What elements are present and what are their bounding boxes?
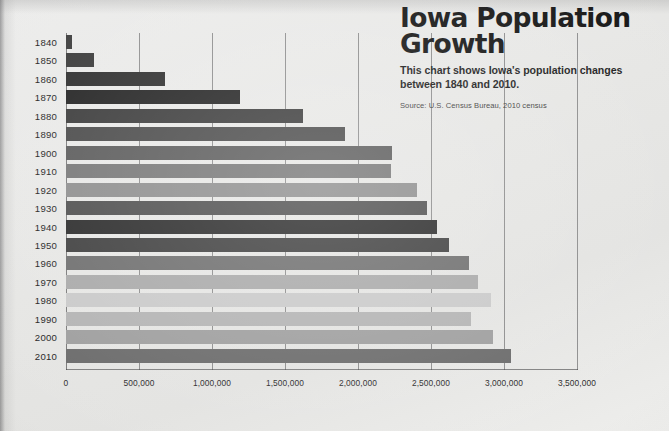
x-tick-1000000: 1,000,000 (193, 378, 231, 388)
bar-2010 (66, 349, 511, 363)
y-axis-label-1960: 1960 (0, 258, 57, 269)
bar-row: 1940 (0, 220, 669, 234)
y-axis-label-1920: 1920 (0, 184, 57, 195)
y-axis-label-1880: 1880 (0, 110, 57, 121)
bar-1970 (66, 275, 478, 289)
chart-source-note: Source: U.S. Census Bureau, 2010 census (400, 101, 650, 110)
y-axis-label-1890: 1890 (0, 129, 57, 140)
bar-1960 (66, 256, 469, 270)
bar-1910 (66, 164, 391, 178)
y-axis-label-1950: 1950 (0, 239, 57, 250)
bar-1860 (66, 72, 165, 86)
x-tick-1500000: 1,500,000 (266, 378, 304, 388)
bar-row: 1960 (0, 256, 669, 270)
y-axis-label-1990: 1990 (0, 313, 57, 324)
bar-1920 (66, 183, 417, 197)
bar-row: 1970 (0, 275, 669, 289)
bar-1950 (66, 238, 449, 252)
bar-2000 (66, 330, 493, 344)
y-axis-label-2000: 2000 (0, 332, 57, 343)
bar-1850 (66, 53, 94, 67)
chart-subtitle: This chart shows Iowa's population chang… (400, 64, 650, 91)
y-axis-label-1970: 1970 (0, 276, 57, 287)
x-tick-2000000: 2,000,000 (339, 378, 377, 388)
bar-row: 1890 (0, 127, 669, 141)
y-axis-label-1850: 1850 (0, 55, 57, 66)
bar-1840 (66, 35, 72, 49)
bar-row: 1900 (0, 146, 669, 160)
bar-row: 1880 (0, 109, 669, 123)
bar-row: 1990 (0, 312, 669, 326)
bar-1930 (66, 201, 427, 215)
x-tick-500000: 500,000 (124, 378, 155, 388)
bar-1870 (66, 90, 240, 104)
bar-1880 (66, 109, 303, 123)
bar-1890 (66, 127, 345, 141)
bar-1900 (66, 146, 392, 160)
x-axis-line (66, 369, 578, 370)
y-axis-label-2010: 2010 (0, 350, 57, 361)
bar-row: 2010 (0, 349, 669, 363)
bar-row: 1950 (0, 238, 669, 252)
x-tick-0: 0 (64, 378, 69, 388)
y-axis-label-1840: 1840 (0, 37, 57, 48)
bar-1980 (66, 293, 491, 307)
bar-row: 1920 (0, 183, 669, 197)
bar-1940 (66, 220, 437, 234)
y-axis-label-1930: 1930 (0, 203, 57, 214)
bar-1990 (66, 312, 471, 326)
x-tick-2500000: 2,500,000 (412, 378, 450, 388)
bar-row: 1910 (0, 164, 669, 178)
y-axis-label-1870: 1870 (0, 92, 57, 103)
chart-header: Iowa Population Growth This chart shows … (400, 5, 650, 110)
x-tick-3500000: 3,500,000 (558, 378, 596, 388)
bar-row: 1930 (0, 201, 669, 215)
y-axis-label-1940: 1940 (0, 221, 57, 232)
bar-row: 1980 (0, 293, 669, 307)
page-title: Iowa Population Growth (400, 5, 650, 57)
y-axis-label-1910: 1910 (0, 166, 57, 177)
y-axis-label-1900: 1900 (0, 147, 57, 158)
bar-row: 2000 (0, 330, 669, 344)
x-tick-3000000: 3,000,000 (485, 378, 523, 388)
y-axis-label-1980: 1980 (0, 295, 57, 306)
y-axis-label-1860: 1860 (0, 73, 57, 84)
